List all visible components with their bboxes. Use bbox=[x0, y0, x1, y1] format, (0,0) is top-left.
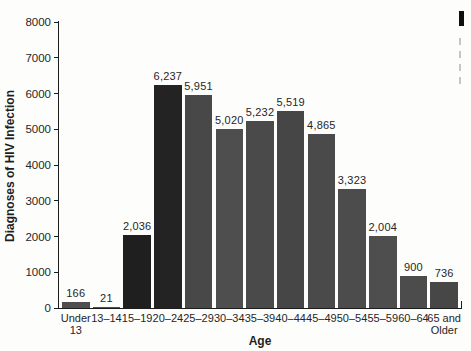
bar-65-and-older bbox=[430, 282, 458, 308]
y-axis-tick-label: 4000 bbox=[7, 160, 51, 171]
x-axis-end-tick bbox=[461, 301, 462, 308]
caption-line-stub bbox=[459, 77, 461, 84]
y-axis-tick-label: 6000 bbox=[7, 89, 51, 100]
y-axis-tick-label: 0 bbox=[7, 303, 51, 314]
bar-15–19 bbox=[123, 235, 151, 308]
bar-50–54 bbox=[338, 189, 366, 308]
bar-40–44 bbox=[277, 111, 305, 308]
bar-value-label: 4,865 bbox=[293, 120, 349, 131]
y-axis-tick bbox=[54, 200, 58, 201]
bar-value-label: 5,951 bbox=[171, 81, 227, 92]
x-axis-line bbox=[58, 308, 462, 309]
x-axis-title: Age bbox=[160, 334, 360, 348]
bar-60–64 bbox=[400, 276, 428, 308]
bar-value-label: 736 bbox=[416, 268, 471, 279]
y-axis-tick bbox=[54, 57, 58, 58]
y-axis-tick bbox=[54, 93, 58, 94]
y-axis-tick bbox=[54, 165, 58, 166]
bar-value-label: 2,004 bbox=[355, 222, 411, 233]
bar-20–24 bbox=[154, 85, 182, 308]
x-axis-tick-label: 65 and Older bbox=[421, 312, 467, 336]
y-axis-tick-label: 2000 bbox=[7, 232, 51, 243]
y-axis-tick-label: 5000 bbox=[7, 124, 51, 135]
hiv-diagnoses-bar-chart: Diagnoses of HIV Infection 0100020003000… bbox=[0, 0, 471, 351]
caption-line-stub bbox=[459, 51, 461, 58]
cropped-caption-fragment bbox=[457, 0, 471, 95]
bar-13–14 bbox=[93, 307, 121, 308]
plot-area: 166212,0366,2375,9515,0205,2325,5194,865… bbox=[59, 22, 461, 308]
caption-line-stub bbox=[459, 38, 461, 45]
caption-line-stub bbox=[459, 64, 461, 71]
bar-value-label: 5,519 bbox=[263, 97, 319, 108]
bar-45–49 bbox=[308, 134, 336, 308]
y-axis-tick bbox=[54, 236, 58, 237]
y-axis-tick-label: 8000 bbox=[7, 17, 51, 28]
y-axis-tick-label: 1000 bbox=[7, 267, 51, 278]
y-axis-tick bbox=[54, 272, 58, 273]
y-axis-tick-label: 3000 bbox=[7, 196, 51, 207]
caption-bold-text-stub bbox=[459, 11, 464, 26]
bar-30–34 bbox=[216, 129, 244, 308]
y-axis-tick bbox=[54, 129, 58, 130]
y-axis-tick-label: 7000 bbox=[7, 53, 51, 64]
y-axis-tick bbox=[54, 308, 58, 309]
bar-value-label: 3,323 bbox=[324, 175, 380, 186]
bar-35–39 bbox=[246, 121, 274, 308]
y-axis-tick bbox=[54, 22, 58, 23]
bar-25–29 bbox=[185, 95, 213, 308]
